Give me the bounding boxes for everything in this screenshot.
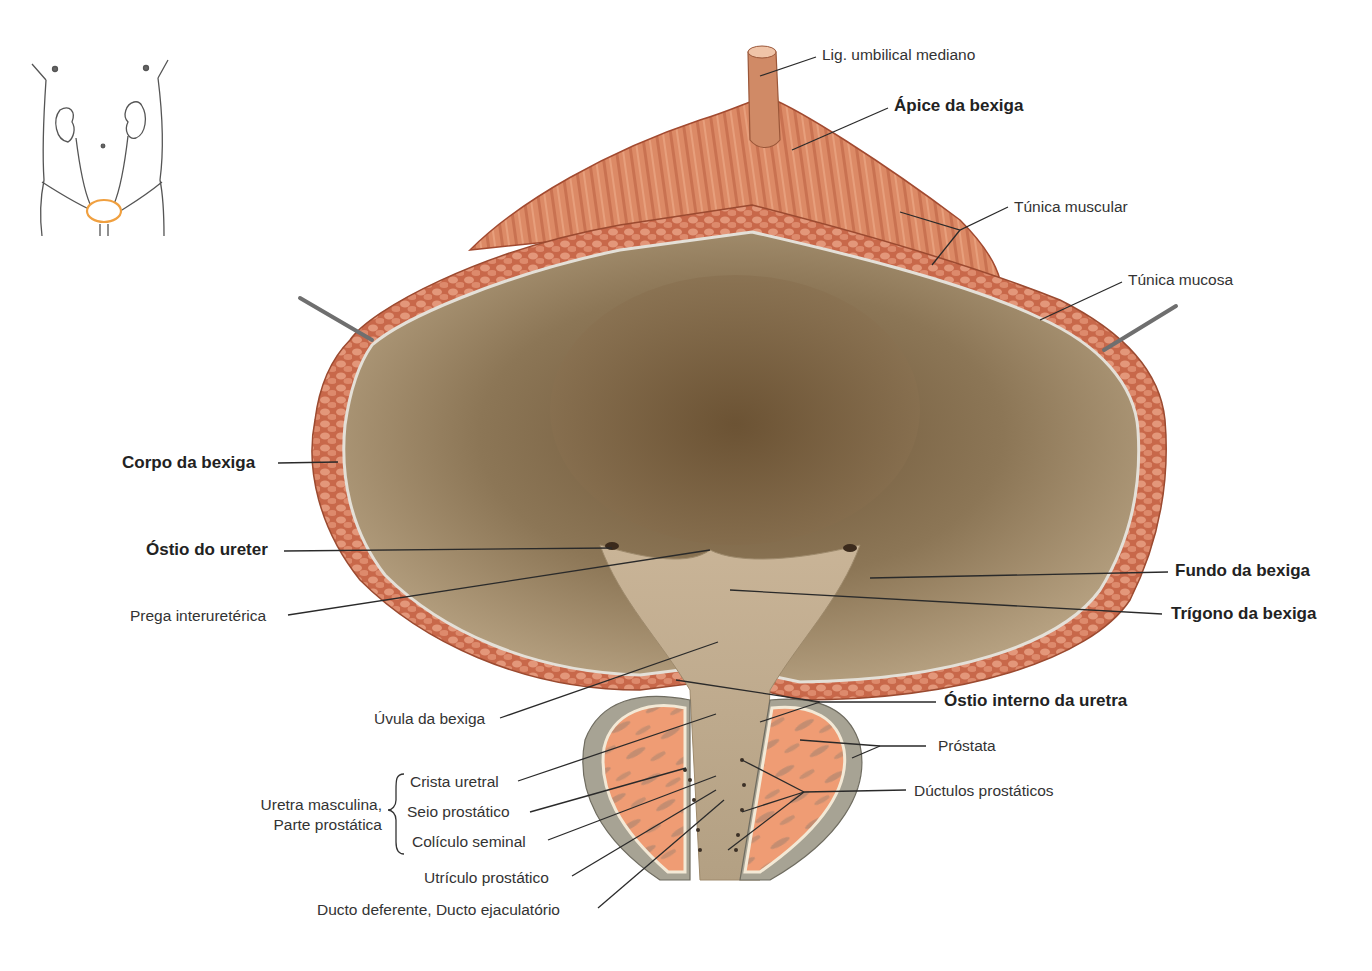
label-uvula-da-bexiga: Úvula da bexiga xyxy=(374,710,485,728)
label-coliculo-seminal: Colículo seminal xyxy=(412,833,526,851)
label-lig-umbilical-mediano: Lig. umbilical mediano xyxy=(822,46,975,64)
label-tunica-mucosa: Túnica mucosa xyxy=(1128,271,1233,289)
label-prega-interureterica: Prega interuretérica xyxy=(130,607,266,625)
median-umbilical-ligament xyxy=(748,48,780,148)
ureter-orifice-left xyxy=(605,542,619,550)
label-corpo-da-bexiga: Corpo da bexiga xyxy=(122,454,255,472)
label-uretra-line2: Parte prostática xyxy=(236,815,382,835)
label-ducto-deferente-ejaculatorio: Ducto deferente, Ducto ejaculatório xyxy=(317,901,560,919)
label-ostio-interno-da-uretra: Óstio interno da uretra xyxy=(944,692,1127,710)
label-uretra-line1: Uretra masculina, xyxy=(236,795,382,815)
bladder-illustration xyxy=(0,0,1372,971)
label-crista-uretral: Crista uretral xyxy=(410,773,499,791)
label-uretra-masculina-group: Uretra masculina, Parte prostática xyxy=(236,795,382,835)
label-ostio-do-ureter: Óstio do ureter xyxy=(146,541,268,559)
label-trigono-da-bexiga: Trígono da bexiga xyxy=(1171,605,1316,623)
orientation-inset xyxy=(32,60,168,236)
label-prostata: Próstata xyxy=(938,737,996,755)
label-apice-da-bexiga: Ápice da bexiga xyxy=(894,97,1023,115)
label-utriculo-prostatico: Utrículo prostático xyxy=(424,869,549,887)
hook-left xyxy=(300,298,372,340)
label-fundo-da-bexiga: Fundo da bexiga xyxy=(1175,562,1310,580)
label-tunica-muscular: Túnica muscular xyxy=(1014,198,1128,216)
label-ductulos-prostaticos: Dúctulos prostáticos xyxy=(914,782,1054,800)
urethra-group-brace xyxy=(388,774,404,854)
hook-right xyxy=(1104,306,1176,350)
label-seio-prostatico: Seio prostático xyxy=(407,803,510,821)
ureter-orifice-right xyxy=(843,544,857,552)
